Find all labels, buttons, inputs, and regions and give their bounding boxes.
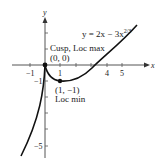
cusp-point: [43, 63, 48, 68]
equation-text: y = 2x − 3x: [82, 29, 124, 39]
x-arrow-icon: [144, 63, 150, 68]
x-axis: [12, 63, 150, 68]
loc-min-point: [58, 79, 62, 83]
x-tick-label: 5: [120, 69, 124, 78]
cusp-annotation: Cusp, Loc max: [50, 43, 105, 53]
x-tick-label: 1: [58, 69, 62, 78]
y-tick-label: −5: [34, 142, 43, 151]
y-axis-label: y: [42, 8, 47, 17]
y-tick-label: −1: [34, 77, 43, 86]
equation-exponent: 2/3: [124, 28, 132, 34]
min-annotation: Loc min: [55, 94, 86, 104]
function-graph: −1 1 4 5 −1 −5 y x y = 2x − 3x2/3 Cusp, …: [0, 0, 164, 162]
cusp-coordinates: (0, 0): [50, 53, 70, 63]
y-arrow-icon: [43, 17, 48, 23]
x-tick-label: 4: [105, 69, 109, 78]
x-axis-label: x: [150, 61, 155, 70]
